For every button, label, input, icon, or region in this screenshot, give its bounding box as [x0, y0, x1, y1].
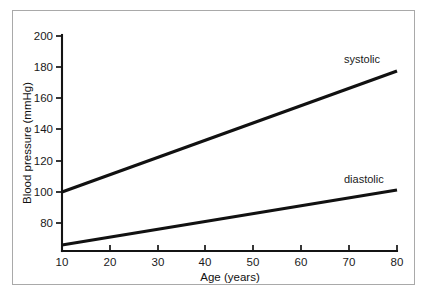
- y-tick-label-80: 80: [40, 217, 53, 229]
- y-tick-label-160: 160: [34, 92, 53, 104]
- series-group: [62, 71, 397, 245]
- x-tick-label-20: 20: [104, 256, 117, 268]
- x-tick-label-50: 50: [247, 256, 260, 268]
- y-tick-label-200: 200: [34, 30, 53, 42]
- y-axis-title: Blood pressure (mmHg): [21, 82, 33, 204]
- series-label-systolic: systolic: [344, 53, 381, 65]
- y-tick-label-180: 180: [34, 61, 53, 73]
- y-tick-label-140: 140: [34, 123, 53, 135]
- x-tick-label-60: 60: [295, 256, 308, 268]
- series-line-diastolic: [62, 190, 397, 245]
- x-tick-label-80: 80: [391, 256, 404, 268]
- x-axis-title: Age (years): [200, 271, 260, 283]
- blood-pressure-line-chart: 200 180 160 140 120 100 80 10 20 30 40 5…: [0, 0, 429, 297]
- y-tick-label-120: 120: [34, 155, 53, 167]
- x-axis-tick-labels: 10 20 30 40 50 60 70 80: [56, 256, 404, 268]
- y-axis-tick-labels: 200 180 160 140 120 100 80: [34, 30, 53, 229]
- x-tick-label-40: 40: [199, 256, 212, 268]
- series-labels: systolic diastolic: [344, 53, 384, 185]
- series-label-diastolic: diastolic: [344, 173, 384, 185]
- x-tick-label-10: 10: [56, 256, 69, 268]
- figure-root: 200 180 160 140 120 100 80 10 20 30 40 5…: [0, 0, 429, 297]
- x-tick-label-70: 70: [343, 256, 356, 268]
- y-tick-label-100: 100: [34, 186, 53, 198]
- x-tick-label-30: 30: [152, 256, 165, 268]
